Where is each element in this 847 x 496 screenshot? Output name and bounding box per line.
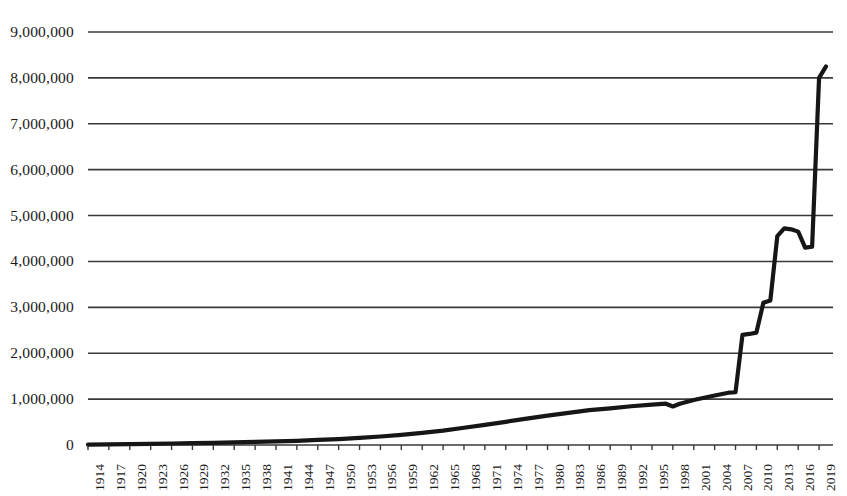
y-axis-tick-label: 3,000,000 bbox=[0, 299, 74, 315]
x-axis-tick-label: 1917 bbox=[114, 464, 128, 491]
x-axis-tick-label: 1992 bbox=[636, 464, 650, 491]
x-axis-tick-label: 1914 bbox=[93, 464, 107, 491]
line-chart bbox=[0, 0, 847, 496]
gridlines bbox=[88, 32, 833, 399]
x-axis-tick-label: 2013 bbox=[782, 464, 796, 491]
x-axis-tick-label: 2016 bbox=[803, 464, 817, 491]
x-axis-tick-label: 1920 bbox=[135, 464, 149, 491]
x-axis-tick-label: 1998 bbox=[678, 464, 692, 491]
y-axis-tick-label: 0 bbox=[0, 437, 74, 453]
x-axis-tick-label: 1965 bbox=[448, 464, 462, 491]
x-axis-tick-label: 1995 bbox=[657, 464, 671, 491]
y-axis-tick-label: 8,000,000 bbox=[0, 70, 74, 86]
x-axis-tick-label: 1932 bbox=[218, 464, 232, 491]
x-axis-tick-label: 1968 bbox=[469, 464, 483, 491]
y-axis-tick-label: 9,000,000 bbox=[0, 24, 74, 40]
x-axis-tick-label: 1989 bbox=[615, 464, 629, 491]
y-axis-tick-label: 6,000,000 bbox=[0, 162, 74, 178]
x-axis-tick-label: 1953 bbox=[365, 464, 379, 491]
x-axis-tick-label: 1980 bbox=[553, 464, 567, 491]
x-axis-tick-label: 1959 bbox=[406, 464, 420, 491]
y-axis-tick-label: 2,000,000 bbox=[0, 345, 74, 361]
x-axis-tick-label: 1941 bbox=[281, 464, 295, 491]
x-axis-tick-label: 1929 bbox=[197, 464, 211, 491]
x-axis-tick-label: 1950 bbox=[344, 464, 358, 491]
x-axis-tick-label: 2010 bbox=[761, 464, 775, 491]
x-axis-tick-label: 1923 bbox=[156, 464, 170, 491]
x-axis-tick-label: 1971 bbox=[490, 464, 504, 491]
chart-container: 01,000,0002,000,0003,000,0004,000,0005,0… bbox=[0, 0, 847, 496]
y-axis-tick-label: 1,000,000 bbox=[0, 391, 74, 407]
y-axis-tick-label: 4,000,000 bbox=[0, 253, 74, 269]
x-axis-tick-label: 1962 bbox=[427, 464, 441, 491]
x-axis-tick-label: 1935 bbox=[239, 464, 253, 491]
x-axis-tick-label: 1974 bbox=[511, 464, 525, 491]
x-axis-tick-label: 1983 bbox=[573, 464, 587, 491]
x-axis-tick-label: 1986 bbox=[594, 464, 608, 491]
x-axis-tick-label: 2004 bbox=[720, 464, 734, 491]
y-axis-tick-label: 5,000,000 bbox=[0, 208, 74, 224]
x-axis-tick-label: 2007 bbox=[741, 464, 755, 491]
x-axis-tick-label: 1938 bbox=[260, 464, 274, 491]
x-axis-tick-label: 1926 bbox=[177, 464, 191, 491]
y-axis-tick-label: 7,000,000 bbox=[0, 116, 74, 132]
x-axis-tick-label: 1977 bbox=[532, 464, 546, 491]
x-axis-tick-label: 1956 bbox=[385, 464, 399, 491]
x-axis-tick-label: 2001 bbox=[699, 464, 713, 491]
x-axis-tick-label: 1947 bbox=[323, 464, 337, 491]
x-axis-tick-label: 1944 bbox=[302, 464, 316, 491]
x-axis-tick-label: 2019 bbox=[824, 464, 838, 491]
